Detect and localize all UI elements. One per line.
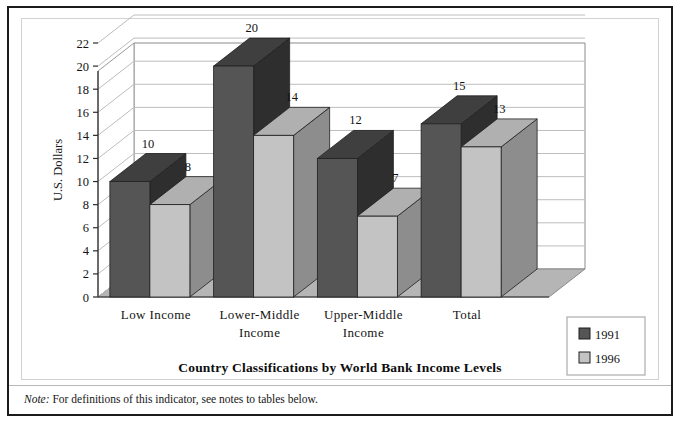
y-tick-label: 12 [77,152,90,166]
bar-front-face [110,182,150,297]
y-tick-label: 22 [77,37,90,51]
bar-front-face [461,147,501,297]
bar-value-label: 14 [285,90,298,104]
y-tick-label: 20 [77,60,90,74]
bar-front-face [317,158,357,297]
legend-swatch-1996 [579,352,590,363]
legend: 19911996 [567,317,645,375]
y-tick-label: 6 [83,221,89,235]
bar-side-face [501,119,537,297]
bar-value-label: 8 [185,160,191,174]
x-axis-title: Country Classifications by World Bank In… [178,360,501,375]
y-tick-label: 4 [83,244,90,258]
bar-value-label: 20 [245,21,258,35]
y-tick-label: 18 [77,83,90,97]
category-label: Income [343,325,384,340]
bar-front-face [214,66,254,297]
chart-page: Note: For definitions of this indicator,… [0,0,680,422]
y-tick-label: 0 [83,291,89,305]
bar-value-label: 10 [142,137,155,151]
category-label: Income [239,325,280,340]
bar-value-label: 15 [453,79,466,93]
y-tick-label: 14 [77,129,90,143]
y-tick-label: 10 [77,175,90,189]
category-label: Total [453,307,482,322]
bar-value-label: 7 [392,171,398,185]
bar-1996-3 [461,119,537,297]
y-tick-label: 16 [77,106,90,120]
y-axis: 0246810121416182022 [77,37,99,305]
y-tick-label: 2 [83,267,89,281]
legend-swatch-1991 [579,328,590,339]
bar-value-label: 13 [493,102,506,116]
category-labels: Low IncomeLower-MiddleIncomeUpper-Middle… [121,307,482,340]
category-label: Lower-Middle [219,307,299,322]
y-tick-label: 8 [83,198,89,212]
bar-front-face [150,205,190,297]
bar-front-face [254,135,294,297]
gridline-depth [98,15,134,43]
category-label: Upper-Middle [324,307,403,322]
y-axis-title: U.S. Dollars [51,139,65,201]
legend-label-1991: 1991 [595,328,620,342]
category-label: Low Income [121,307,191,322]
legend-label-1996: 1996 [595,352,620,366]
bar-front-face [357,216,397,297]
bar-chart-3d: 0246810121416182022U.S. Dollars108201412… [0,0,680,422]
legend-box [567,317,645,375]
bar-front-face [421,124,461,297]
bar-value-label: 12 [349,113,362,127]
